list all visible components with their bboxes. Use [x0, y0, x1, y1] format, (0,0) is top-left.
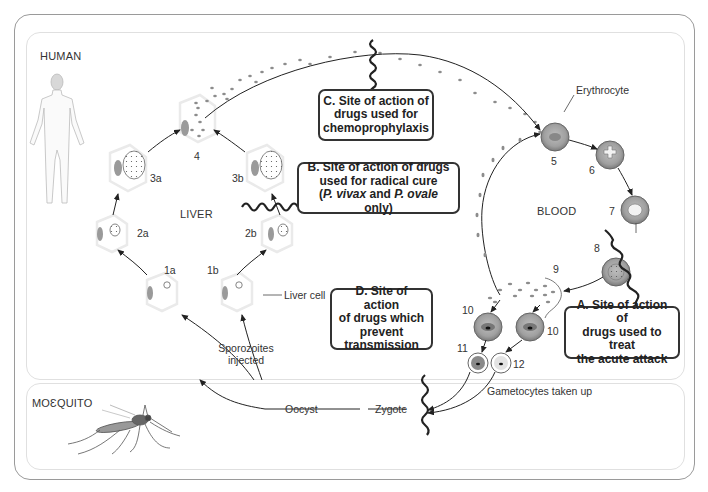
ruptured-cell-9 — [545, 278, 561, 318]
stage-1b: 1b — [207, 264, 219, 276]
stage-12: 12 — [513, 358, 525, 370]
label-liver-cell: Liver cell — [284, 289, 325, 301]
stage-10a: 10 — [462, 304, 474, 316]
erythrocyte-pointer — [564, 95, 574, 112]
callout-A-acute-attack: A. Site of action of drugs used to treat… — [564, 306, 680, 359]
human-figure-icon — [30, 74, 84, 203]
callout-B-radical-cure: B. Site of action of drugs used for radi… — [297, 162, 460, 214]
stage-5: 5 — [551, 155, 557, 167]
region-blood: BLOOD — [537, 205, 577, 217]
stage-6: 6 — [589, 164, 595, 176]
drug-action-squiggles — [242, 40, 646, 435]
squiggle-B — [242, 204, 298, 211]
label-oocyst: Oocyst — [285, 403, 318, 415]
region-liver: LIVER — [180, 208, 213, 220]
label-sporozoites: Sporozoites injected — [215, 342, 277, 366]
stage-4: 4 — [194, 150, 200, 162]
stage-7: 7 — [609, 205, 615, 217]
stage-11: 11 — [457, 342, 468, 354]
region-mosquito: MOƐQUITO — [32, 397, 93, 409]
label-zygote: Zygote — [375, 403, 407, 415]
callout-D-transmission: D. Site of action of drugs which prevent… — [330, 288, 433, 350]
stage-3a: 3a — [150, 172, 162, 184]
stage-10b: 10 — [547, 325, 559, 337]
stage-9: 9 — [553, 263, 559, 275]
stage-1a: 1a — [164, 264, 176, 276]
region-human: HUMAN — [40, 50, 81, 62]
squiggle-D — [422, 375, 429, 435]
stage-3b: 3b — [232, 172, 244, 184]
stage-8: 8 — [594, 242, 600, 254]
mosquito-icon — [68, 405, 180, 454]
callout-C-chemoprophylaxis: C. Site of action of drugs used for chem… — [318, 89, 434, 141]
squiggle-C — [370, 40, 376, 96]
blood-merozoites — [476, 138, 556, 303]
stage-2a: 2a — [137, 227, 149, 239]
stage-2b: 2b — [245, 227, 257, 239]
label-gametocytes: Gametocytes taken up — [487, 385, 592, 397]
diagram-graphics — [0, 0, 708, 492]
malaria-life-cycle-diagram: HUMAN MOƐQUITO LIVER BLOOD 1a 1b 2a 2b 3… — [0, 0, 708, 492]
label-erythrocyte: Erythrocyte — [576, 84, 629, 96]
